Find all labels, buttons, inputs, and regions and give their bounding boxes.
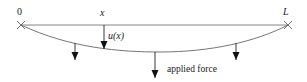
applied-force-label: applied force — [167, 64, 217, 74]
force-arrow-icon — [233, 43, 240, 60]
beam-deflection-diagram: 0 L x u(x) applied force — [0, 0, 307, 82]
position-label: x — [99, 7, 105, 18]
deflected-beam-curve — [21, 25, 288, 52]
displacement-label: u(x) — [108, 30, 125, 42]
force-arrow-icon — [72, 43, 79, 60]
left-end-label: 0 — [17, 6, 22, 17]
force-arrow-icon — [152, 52, 159, 78]
right-end-label: L — [282, 6, 289, 17]
